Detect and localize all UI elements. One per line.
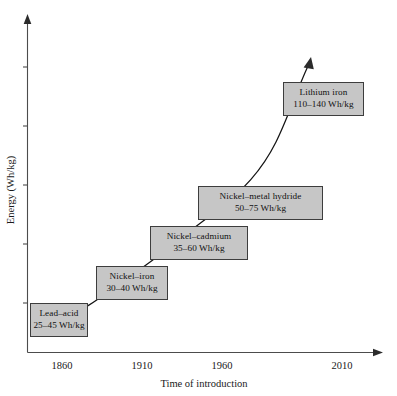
data-label-title: Nickel–iron xyxy=(110,271,155,283)
y-axis-arrowhead xyxy=(24,14,32,24)
x-tick-label-1910: 1910 xyxy=(132,360,153,371)
data-label-value: 50–75 Wh/kg xyxy=(235,203,286,215)
trend-curve-arrowhead xyxy=(304,57,314,69)
battery-energy-density-chart: 1860 1910 1960 2010 Time of introduction… xyxy=(0,0,397,396)
data-label-title: Nickel–metal hydride xyxy=(220,191,302,203)
data-label-value: 110–140 Wh/kg xyxy=(293,99,353,111)
x-tick-label-1860: 1860 xyxy=(52,360,73,371)
data-label-nickel-metal-hydride: Nickel–metal hydride 50–75 Wh/kg xyxy=(198,186,323,220)
y-axis-title: Energy (Wh/kg) xyxy=(5,155,17,224)
data-label-lead-acid: Lead–acid 25–45 Wh/kg xyxy=(30,303,88,337)
data-label-value: 25–45 Wh/kg xyxy=(33,320,84,332)
data-label-nickel-iron: Nickel–iron 30–40 Wh/kg xyxy=(96,266,168,300)
data-label-title: Lead–acid xyxy=(39,308,78,320)
data-label-value: 30–40 Wh/kg xyxy=(106,283,157,295)
data-label-value: 35–60 Wh/kg xyxy=(173,243,224,255)
data-label-lithium-iron: Lithium iron 110–140 Wh/kg xyxy=(283,82,364,116)
x-axis-title: Time of introduction xyxy=(160,378,248,389)
data-label-title: Lithium iron xyxy=(300,87,348,99)
data-label-title: Nickel–cadmium xyxy=(167,231,232,243)
data-label-nickel-cadmium: Nickel–cadmium 35–60 Wh/kg xyxy=(150,226,248,260)
x-axis-arrowhead xyxy=(373,349,383,357)
x-tick-label-2010: 2010 xyxy=(332,360,353,371)
x-tick-label-1960: 1960 xyxy=(212,360,233,371)
